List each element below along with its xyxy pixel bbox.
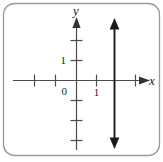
x-unit-label: 1	[94, 86, 100, 98]
graph-figure: x y 0 1 1	[0, 0, 163, 162]
coordinate-plane-svg: x y 0 1 1	[0, 0, 163, 162]
figure-border	[4, 4, 160, 156]
y-unit-label: 1	[61, 54, 67, 66]
origin-label: 0	[62, 85, 68, 97]
y-axis-label: y	[71, 3, 79, 18]
x-axis-label: x	[148, 73, 155, 88]
